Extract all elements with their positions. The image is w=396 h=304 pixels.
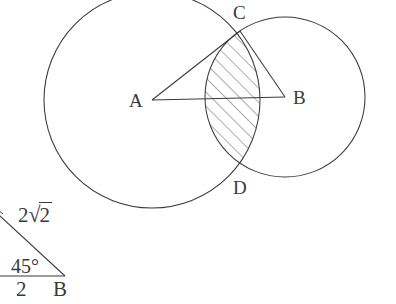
square-root-icon: √2 xyxy=(29,204,53,226)
inset-hypotenuse-label: 2√2 xyxy=(18,204,52,226)
label-intersection-c: C xyxy=(233,3,246,22)
inset-base-label: 2 xyxy=(16,279,27,300)
inset-angle-label: 45° xyxy=(11,256,39,276)
figure-canvas xyxy=(0,0,396,304)
label-center-a: A xyxy=(129,91,143,110)
label-center-b: B xyxy=(293,88,306,107)
inset-hypotenuse-radicand: 2 xyxy=(39,202,53,227)
inset-degree-tick xyxy=(0,210,3,214)
geometry-figure: A B C D 2√2 45° 2 B xyxy=(0,0,396,304)
inset-hypotenuse-coefficient: 2 xyxy=(18,203,29,227)
inset-vertex-label: B xyxy=(53,279,67,300)
label-intersection-d: D xyxy=(233,178,247,197)
